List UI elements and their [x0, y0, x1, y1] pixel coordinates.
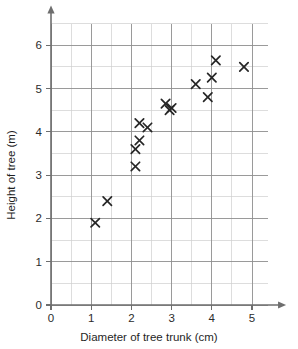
y-axis-arrow-icon	[47, 6, 54, 14]
data-point-marker	[212, 56, 220, 64]
major-gridlines	[51, 24, 268, 305]
x-axis-tick-labels: 012345	[48, 312, 255, 324]
axis-tick-marks	[46, 45, 252, 310]
x-axis-tick-label: 1	[88, 312, 94, 324]
data-point-marker	[103, 197, 111, 205]
y-axis-tick-label: 5	[36, 83, 42, 95]
y-axis-tick-label: 3	[36, 169, 42, 181]
scatter-chart-figure: 012345 0123456 Diameter of tree trunk (c…	[0, 0, 298, 349]
data-point-marker	[135, 119, 143, 127]
data-point-marker	[192, 80, 200, 88]
x-axis-tick-label: 5	[249, 312, 255, 324]
axes	[47, 6, 286, 309]
y-axis-tick-label: 6	[36, 39, 42, 51]
data-point-markers	[91, 56, 248, 227]
data-point-marker	[131, 145, 139, 153]
scatter-plot-canvas: 012345 0123456 Diameter of tree trunk (c…	[0, 0, 298, 349]
x-axis-arrow-icon	[278, 301, 286, 308]
data-point-marker	[91, 219, 99, 227]
y-axis-tick-label: 2	[36, 212, 42, 224]
data-point-marker	[131, 162, 139, 170]
x-axis-title: Diameter of tree trunk (cm)	[80, 331, 218, 343]
y-axis-tick-labels: 0123456	[36, 39, 43, 311]
x-axis-tick-label: 0	[48, 312, 54, 324]
y-axis-tick-label: 0	[36, 299, 42, 311]
data-point-marker	[143, 123, 151, 131]
y-axis-tick-label: 1	[36, 256, 42, 268]
y-axis-tick-label: 4	[36, 126, 43, 138]
data-point-marker	[204, 93, 212, 101]
x-axis-tick-label: 3	[168, 312, 174, 324]
minor-gridlines	[51, 24, 268, 305]
x-axis-tick-label: 2	[128, 312, 134, 324]
data-point-marker	[135, 136, 143, 144]
y-axis-title: Height of tree (m)	[5, 130, 17, 220]
x-axis-tick-label: 4	[209, 312, 216, 324]
